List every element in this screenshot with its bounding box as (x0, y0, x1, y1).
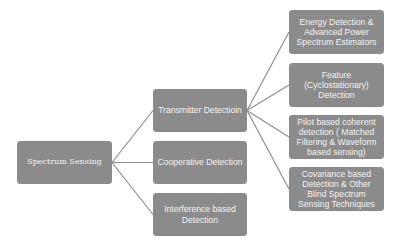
connector-transmitter-pilot (247, 111, 289, 138)
node-label: Transmitter Detectioin (158, 105, 242, 115)
node-interference-based-detection: Interference based Detection (153, 193, 247, 236)
node-pilot-coherent-detection: Pilot based coherent detection ( Matched… (289, 115, 384, 159)
node-label: Feature (Cyclostationary) Detection (292, 70, 381, 101)
node-transmitter-detection: Transmitter Detectioin (153, 89, 247, 132)
node-feature-detection: Feature (Cyclostationary) Detection (289, 63, 384, 107)
connector-root-interference (112, 163, 153, 215)
node-label: Interference based Detection (156, 204, 244, 224)
node-label: Pilot based coherent detection ( Matched… (292, 117, 381, 158)
spectrum-sensing-tree-diagram: Spectrum Sensing Transmitter Detectioin … (0, 0, 408, 245)
node-label: Covariance based Detection & Other Blind… (292, 169, 381, 210)
connector-root-transmitter (112, 111, 153, 163)
node-covariance-detection: Covariance based Detection & Other Blind… (289, 167, 384, 211)
node-cooperative-detection: Cooperative Detection (153, 141, 247, 184)
node-energy-detection: Energy Detection & Advanced Power Spectr… (289, 10, 384, 54)
node-spectrum-sensing: Spectrum Sensing (17, 141, 112, 184)
node-label: Energy Detection & Advanced Power Spectr… (292, 17, 381, 48)
node-label: Cooperative Detection (157, 157, 242, 167)
connector-transmitter-covariance (247, 111, 289, 190)
node-label: Spectrum Sensing (27, 157, 101, 167)
connector-transmitter-energy (247, 32, 289, 111)
